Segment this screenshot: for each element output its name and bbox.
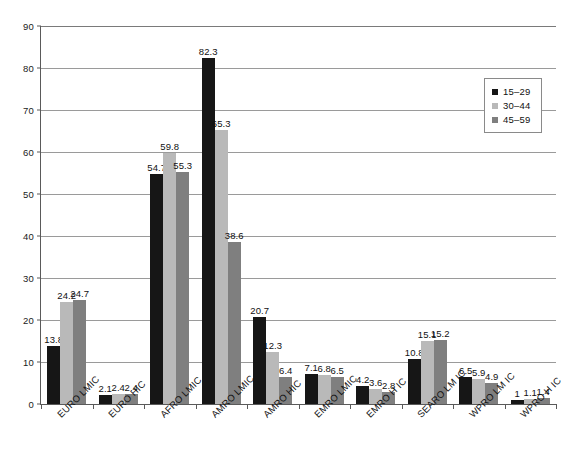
bar-value-label: 1: [515, 388, 520, 399]
bar[interactable]: 55.3: [176, 172, 189, 404]
y-axis-tick-label: 0: [29, 399, 34, 410]
bar-group: 7.16.86.5: [305, 26, 344, 404]
bar-group: 10.815.115.2: [408, 26, 447, 404]
y-axis-tick-label: 60: [23, 147, 34, 158]
legend-swatch-icon: [492, 89, 498, 95]
y-axis-tick-label: 30: [23, 273, 34, 284]
legend-item-label: 30–44: [503, 100, 530, 111]
bar-value-label: 6.8: [317, 363, 331, 374]
bar-value-label: 55.3: [173, 160, 192, 171]
x-axis-tick-mark: [196, 404, 197, 409]
bar-value-label: 15.2: [431, 328, 450, 339]
y-axis-tick-mark: [37, 26, 41, 27]
bar[interactable]: 65.3: [215, 130, 228, 404]
x-axis-tick-mark: [453, 404, 454, 409]
y-axis-tick-label: 80: [23, 63, 34, 74]
bar[interactable]: 7.1: [305, 374, 318, 404]
legend-item[interactable]: 15–29: [492, 85, 535, 98]
y-axis-tick-label: 40: [23, 231, 34, 242]
bar-value-label: 3.6: [369, 377, 383, 388]
x-axis-tick-mark: [505, 404, 506, 409]
y-axis-tick-mark: [37, 236, 41, 237]
bar-value-label: 2.4: [111, 382, 125, 393]
x-axis-tick-mark: [556, 404, 557, 409]
bar[interactable]: 54.7: [150, 174, 163, 404]
bar-value-label: 5.9: [472, 367, 486, 378]
legend-item-label: 15–29: [503, 86, 530, 97]
y-axis-tick-mark: [37, 362, 41, 363]
legend-swatch-icon: [492, 117, 498, 123]
bar[interactable]: 20.7: [253, 317, 266, 404]
legend-item-label: 45–59: [503, 114, 530, 125]
legend-item[interactable]: 45–59: [492, 113, 535, 126]
plot-area: 010203040506070809013.824.224.72.12.42.4…: [40, 26, 556, 405]
bar-group: 2.12.42.4: [99, 26, 138, 404]
y-axis-tick-label: 20: [23, 315, 34, 326]
bar-value-label: 65.3: [212, 118, 231, 129]
y-axis-tick-mark: [37, 278, 41, 279]
legend-swatch-icon: [492, 103, 498, 109]
x-axis-tick-mark: [144, 404, 145, 409]
legend-item[interactable]: 30–44: [492, 99, 535, 112]
x-axis-tick-mark: [299, 404, 300, 409]
x-axis-tick-mark: [247, 404, 248, 409]
bar-value-label: 7.1: [304, 362, 318, 373]
x-axis-tick-mark: [93, 404, 94, 409]
bar-chart: 010203040506070809013.824.224.72.12.42.4…: [0, 0, 577, 470]
bar[interactable]: 10.8: [408, 359, 421, 404]
y-axis-tick-mark: [37, 110, 41, 111]
bar[interactable]: 1: [511, 400, 524, 404]
bar-value-label: 6.4: [279, 365, 293, 376]
y-axis-tick-label: 10: [23, 357, 34, 368]
bar-group: 4.23.62.8: [356, 26, 395, 404]
y-axis-tick-mark: [37, 152, 41, 153]
y-axis-tick-mark: [37, 194, 41, 195]
bar-value-label: 20.7: [250, 305, 269, 316]
bar-value-label: 59.8: [160, 141, 179, 152]
y-axis-tick-mark: [37, 320, 41, 321]
bar[interactable]: 82.3: [202, 58, 215, 404]
chart-legend: 15–2930–4445–59: [484, 78, 542, 133]
bar[interactable]: 13.8: [47, 346, 60, 404]
bar[interactable]: 4.2: [356, 386, 369, 404]
x-axis-tick-mark: [350, 404, 351, 409]
bar[interactable]: 38.6: [228, 242, 241, 404]
bar-group: 54.759.855.3: [150, 26, 189, 404]
bar-value-label: 6.5: [330, 365, 344, 376]
y-axis-tick-label: 90: [23, 21, 34, 32]
x-axis-tick-mark: [402, 404, 403, 409]
bar-value-label: 24.7: [70, 288, 89, 299]
bar-value-label: 82.3: [199, 46, 218, 57]
x-axis-tick-mark: [41, 404, 42, 409]
y-axis-tick-label: 50: [23, 189, 34, 200]
bar-group: 82.365.338.6: [202, 26, 241, 404]
bar-value-label: 38.6: [225, 230, 244, 241]
y-axis-tick-mark: [37, 68, 41, 69]
y-axis-tick-label: 70: [23, 105, 34, 116]
bar[interactable]: 24.2: [60, 302, 73, 404]
bar-value-label: 2.1: [98, 383, 112, 394]
bar[interactable]: 59.8: [163, 153, 176, 404]
bar-value-label: 12.3: [263, 340, 282, 351]
bar[interactable]: 2.1: [99, 395, 112, 404]
bar-group: 20.712.36.4: [253, 26, 292, 404]
bar-group: 13.824.224.7: [47, 26, 86, 404]
